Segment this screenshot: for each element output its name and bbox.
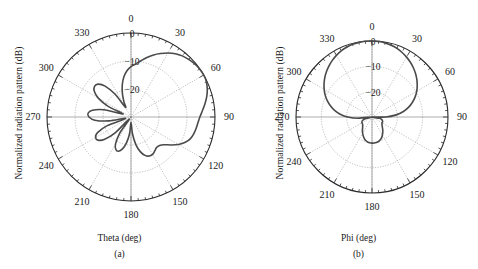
panel-a-xlabel: Theta (deg) [0, 233, 239, 243]
figure-radiation-patterns: Normalized radiation pattern (dB) 030609… [0, 0, 478, 269]
angle-label-150: 150 [410, 189, 425, 200]
outer-tick-290 [52, 88, 54, 89]
outer-tick-205 [340, 184, 341, 186]
grid-spoke-330 [334, 51, 372, 117]
outer-tick-135 [189, 175, 191, 177]
panel-b-xlabel: Phi (deg) [239, 233, 478, 243]
angle-label-180: 180 [365, 201, 380, 212]
outer-tick-295 [55, 82, 57, 83]
outer-tick-140 [183, 179, 185, 181]
radial-label-2: −20 [366, 88, 381, 98]
outer-tick-40 [419, 59, 421, 61]
grid-spoke-30 [372, 51, 410, 117]
outer-tick-35 [178, 48, 179, 50]
outer-tick-315 [72, 58, 74, 60]
outer-tick-300 [58, 75, 62, 78]
outer-tick-110 [207, 145, 209, 146]
grid-spoke-150 [131, 117, 173, 190]
angle-label-270: 270 [275, 111, 290, 122]
outer-tick-295 [303, 85, 305, 86]
grid-spoke-210 [334, 117, 372, 183]
radiation-pattern-curve [88, 53, 208, 156]
outer-tick-215 [328, 177, 329, 179]
outer-tick-245 [303, 148, 305, 149]
outer-tick-210 [89, 185, 92, 189]
angle-label-120: 120 [208, 160, 223, 171]
outer-tick-20 [159, 38, 160, 40]
radial-label-2: −20 [125, 85, 140, 95]
grid-spoke-240 [58, 117, 131, 159]
outer-tick-135 [424, 169, 426, 171]
outer-tick-130 [193, 169, 195, 171]
angle-label-240: 240 [287, 156, 302, 167]
outer-tick-305 [310, 73, 312, 74]
outer-tick-210 [334, 178, 337, 182]
panel-a-polar-plot: 03060901201501802102402703003300−10−20 [0, 0, 239, 269]
outer-tick-25 [403, 48, 404, 50]
outer-tick-290 [301, 91, 303, 92]
outer-tick-145 [414, 177, 415, 179]
outer-tick-205 [96, 191, 97, 193]
panel-a-caption: (a) [0, 249, 239, 259]
outer-tick-220 [323, 173, 325, 175]
outer-tick-130 [428, 164, 430, 166]
outer-tick-315 [318, 63, 320, 65]
outer-tick-65 [439, 85, 441, 86]
outer-tick-120 [433, 153, 437, 156]
outer-tick-225 [318, 169, 320, 171]
outer-tick-240 [58, 157, 62, 160]
outer-tick-120 [199, 157, 203, 160]
outer-tick-150 [171, 185, 174, 189]
grid-spoke-300 [306, 79, 372, 117]
outer-tick-150 [408, 178, 411, 182]
angle-label-330: 330 [75, 27, 90, 38]
outer-tick-310 [314, 68, 316, 70]
grid-spoke-60 [131, 75, 204, 117]
outer-tick-160 [397, 186, 398, 188]
outer-tick-110 [441, 142, 443, 143]
angle-label-120: 120 [442, 156, 457, 167]
outer-tick-145 [178, 184, 179, 186]
outer-tick-30 [408, 51, 411, 55]
outer-tick-40 [183, 53, 185, 55]
outer-tick-235 [62, 164, 64, 165]
outer-tick-225 [72, 175, 74, 177]
outer-tick-125 [432, 159, 434, 160]
outer-tick-35 [414, 55, 415, 57]
outer-tick-125 [198, 164, 200, 165]
outer-tick-305 [62, 69, 64, 70]
panel-b: Normalized radiation pattern (dB) 030609… [239, 0, 478, 269]
outer-tick-335 [340, 48, 341, 50]
outer-tick-215 [83, 184, 84, 186]
outer-tick-50 [428, 68, 430, 70]
outer-tick-70 [441, 91, 443, 92]
angle-label-330: 330 [320, 33, 335, 44]
angle-label-210: 210 [320, 189, 335, 200]
outer-tick-330 [89, 44, 92, 48]
outer-tick-45 [424, 63, 426, 65]
outer-tick-310 [67, 63, 69, 65]
outer-tick-55 [432, 73, 434, 74]
outer-tick-25 [165, 41, 166, 43]
panel-b-caption: (b) [239, 249, 478, 259]
angle-label-60: 60 [445, 66, 455, 77]
angle-label-60: 60 [211, 62, 221, 73]
outer-tick-250 [52, 145, 54, 146]
angle-label-180: 180 [124, 209, 139, 220]
radial-label-1: −10 [366, 62, 381, 72]
angle-label-0: 0 [370, 21, 375, 32]
outer-tick-200 [346, 186, 347, 188]
panel-a: Normalized radiation pattern (dB) 030609… [0, 0, 239, 269]
angle-label-300: 300 [39, 62, 54, 73]
outer-tick-140 [419, 173, 421, 175]
angle-label-210: 210 [75, 196, 90, 207]
outer-tick-250 [301, 142, 303, 143]
outer-tick-235 [310, 159, 312, 160]
panel-b-polar-plot: 03060901201501802102402703003300−10−20 [239, 0, 478, 269]
radial-label-0: 0 [130, 29, 135, 39]
angle-label-90: 90 [224, 111, 234, 122]
angle-label-300: 300 [287, 66, 302, 77]
angle-label-30: 30 [175, 27, 185, 38]
outer-tick-160 [159, 193, 160, 195]
outer-tick-20 [397, 46, 398, 48]
